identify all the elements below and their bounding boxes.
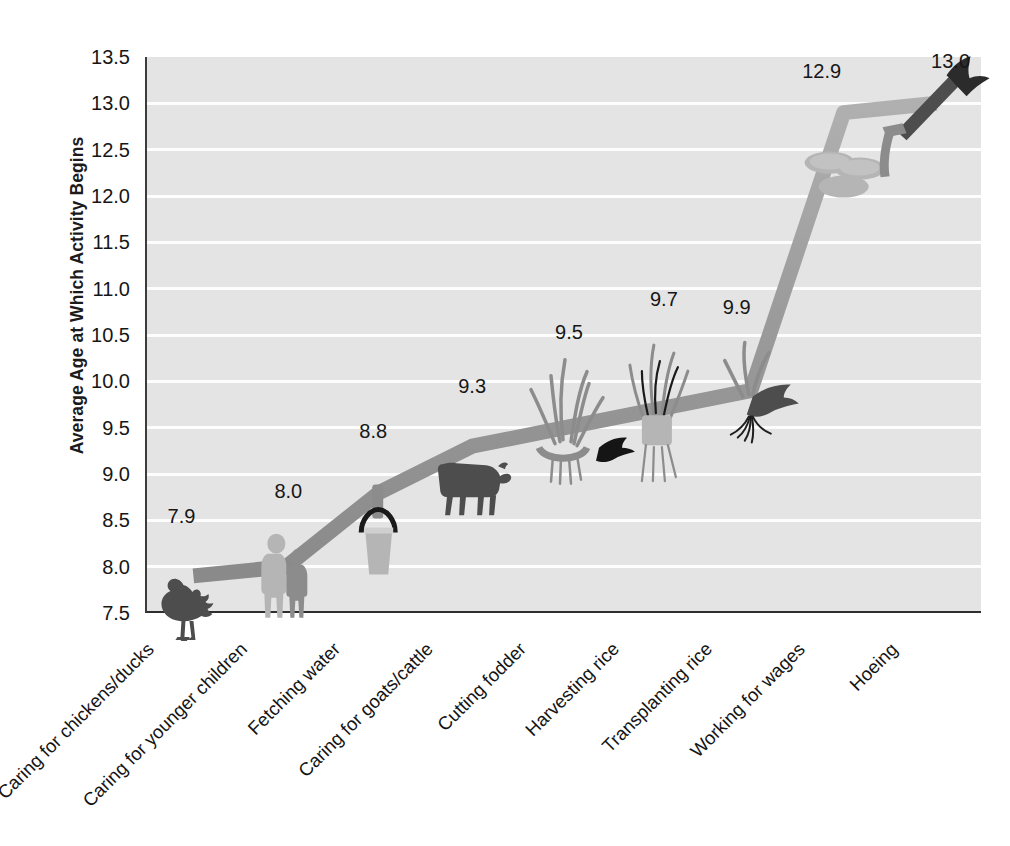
x-tick-label: Hoeing [846, 640, 901, 695]
x-tick-label: Caring for chickens/ducks [0, 640, 158, 803]
x-tick-label: Cutting fodder [434, 640, 529, 735]
x-axis-category-labels: Caring for chickens/ducksCaring for youn… [0, 0, 1010, 846]
x-tick-label: Harvesting rice [522, 639, 622, 739]
x-tick-label: Fetching water [245, 639, 344, 738]
x-tick-label: Caring for younger children [80, 640, 251, 811]
chart-figure: Average Age at Which Activity Begins 13.… [0, 0, 1010, 846]
